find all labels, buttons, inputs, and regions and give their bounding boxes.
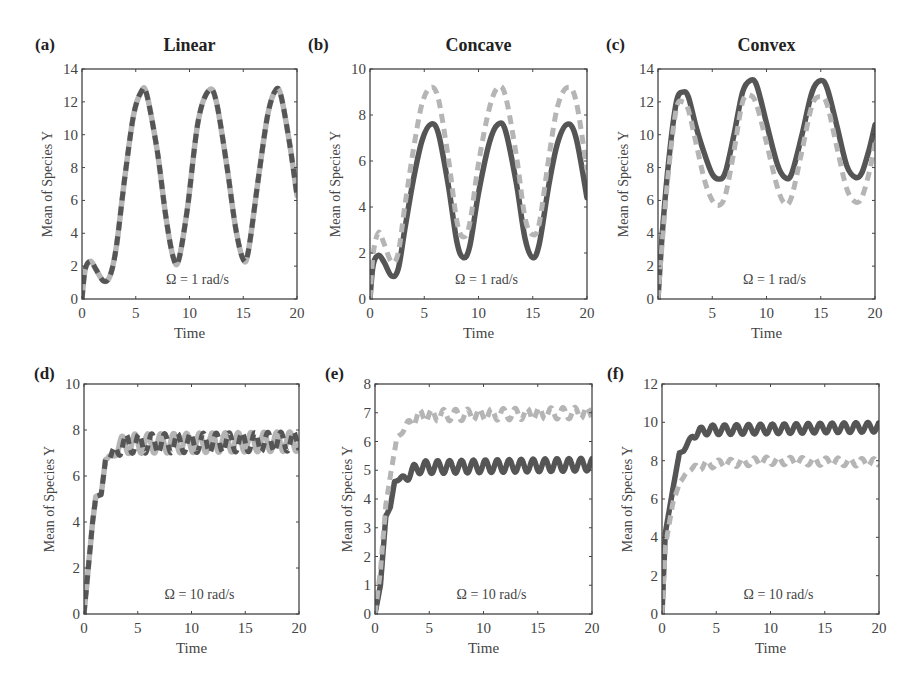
y-tick-label: 4 — [651, 529, 659, 545]
y-tick-label: 8 — [651, 453, 659, 469]
y-tick-label: 12 — [643, 376, 658, 392]
x-tick-label: 10 — [763, 620, 778, 636]
y-tick-label: 0 — [651, 606, 659, 622]
omega-annotation: Ω = 10 rad/s — [743, 587, 813, 602]
y-tick-label: 2 — [651, 568, 659, 584]
x-tick-label: 0 — [658, 620, 666, 636]
chart-svg: 05101520024681012TimeMean of Species YΩ … — [0, 0, 921, 698]
x-tick-label: 20 — [872, 620, 887, 636]
x-tick-label: 5 — [713, 620, 721, 636]
x-tick-label: 15 — [817, 620, 832, 636]
plot-area — [662, 423, 879, 614]
axes-frame — [662, 384, 879, 614]
y-tick-label: 10 — [643, 414, 658, 430]
series-line-dark-solid — [662, 423, 879, 614]
x-axis-label: Time — [755, 640, 786, 656]
y-tick-label: 6 — [651, 491, 659, 507]
y-axis-label: Mean of Species Y — [620, 446, 635, 552]
